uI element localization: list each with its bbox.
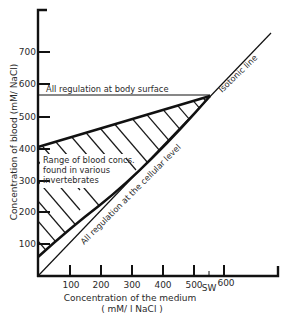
svg-text:200: 200 [19,207,36,217]
y-tick-labels: 700 600 500 400 300 200 100 [19,47,36,249]
svg-text:400: 400 [19,144,36,154]
x-ticks [70,265,224,276]
svg-text:100: 100 [62,280,79,290]
x-axis-title-line2: ( mM/ l NaCl ) [101,304,163,314]
svg-text:600: 600 [217,278,234,288]
sw-label: SW [202,283,217,293]
svg-text:300: 300 [19,176,36,186]
range-label-line3: invertebrates [43,175,99,185]
svg-text:500: 500 [19,112,36,122]
svg-text:300: 300 [123,280,140,290]
osmoregulation-diagram: 700 600 500 400 300 200 100 100 200 300 … [0,0,286,321]
svg-text:500: 500 [185,280,202,290]
x-axis [37,266,278,276]
y-axis-title: Concentration of blood (mM/ NaCl) [9,64,19,220]
svg-text:600: 600 [19,79,36,89]
y-ticks [38,52,50,244]
isotonic-label: Isotonic line [216,53,259,95]
body-surface-label: All regulation at body surface [46,84,169,94]
range-upper-line [38,96,210,147]
x-tick-labels: 100 200 300 400 500 600 SW [62,278,234,293]
x-axis-title-line1: Concentration of the medium [64,293,197,303]
svg-text:100: 100 [19,239,36,249]
range-label-line2: found in various [43,165,110,175]
range-label-line1: Range of blood concs. [43,155,135,165]
svg-text:700: 700 [19,47,36,57]
svg-text:400: 400 [154,280,171,290]
svg-text:200: 200 [92,280,109,290]
